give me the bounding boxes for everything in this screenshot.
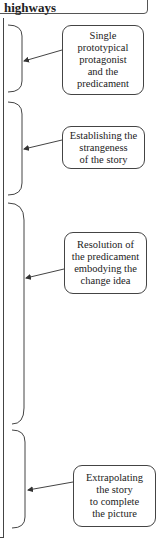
- arrow-4: [28, 482, 73, 490]
- arrow-3: [26, 269, 64, 278]
- brace-1: [8, 25, 22, 92]
- stage-box-3: Resolution of the predicament embodying …: [64, 232, 147, 294]
- stage-box-1: Single prototypical protagonist and the …: [62, 25, 144, 95]
- arrow-1: [24, 50, 62, 61]
- stage-box-2: Establishing the strangeness of the stor…: [62, 126, 145, 169]
- brace-3: [8, 203, 24, 424]
- brace-2: [8, 102, 22, 195]
- arrow-2: [24, 140, 62, 149]
- stage-box-4: Extrapolating the story to complete the …: [73, 465, 156, 527]
- brace-4: [12, 430, 25, 528]
